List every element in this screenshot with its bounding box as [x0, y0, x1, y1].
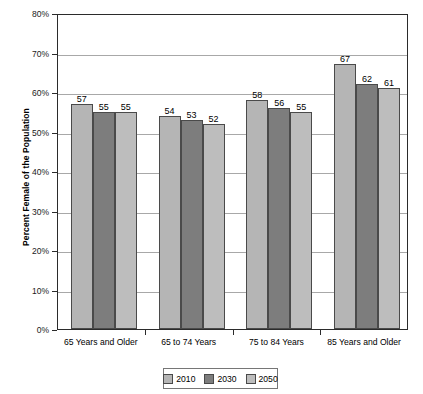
y-tick-mark	[52, 330, 57, 331]
bar	[71, 104, 93, 329]
bar-chart: Percent Female of the Population 0%10%20…	[0, 0, 423, 394]
x-tick-mark	[320, 330, 321, 335]
bar-value-label: 67	[340, 54, 350, 64]
x-category-label: 65 to 74 Years	[161, 337, 216, 347]
y-tick-label: 10%	[9, 286, 49, 296]
y-tick-label: 20%	[9, 246, 49, 256]
y-tick-label: 70%	[9, 49, 49, 59]
bar-value-label: 57	[77, 94, 87, 104]
bar	[334, 64, 356, 329]
x-category-label: 65 Years and Older	[64, 337, 138, 347]
plot-area: 575555545352585655676261	[57, 14, 408, 330]
legend-item-2050[interactable]: 2050	[246, 374, 278, 384]
legend-swatch-2010	[163, 374, 173, 384]
y-tick-label: 80%	[9, 9, 49, 19]
x-category-label: 75 to 84 Years	[249, 337, 304, 347]
legend-swatch-2030	[204, 374, 214, 384]
legend-label-2030: 2030	[217, 374, 236, 384]
bar	[181, 120, 203, 329]
bar-value-label: 54	[165, 106, 175, 116]
y-tick-label: 50%	[9, 128, 49, 138]
x-category-label: 85 Years and Older	[327, 337, 401, 347]
legend-item-2010[interactable]: 2010	[163, 374, 195, 384]
legend: 2010 2030 2050	[163, 368, 278, 389]
y-tick-label: 60%	[9, 88, 49, 98]
bar	[159, 116, 181, 329]
bar	[290, 112, 312, 329]
legend-item-2030[interactable]: 2030	[204, 374, 236, 384]
bar-value-label: 61	[384, 78, 394, 88]
bar	[246, 100, 268, 329]
bar-value-label: 55	[99, 102, 109, 112]
bar-value-label: 53	[187, 110, 197, 120]
bar-value-label: 56	[274, 98, 284, 108]
bar-value-label: 58	[252, 90, 262, 100]
legend-swatch-2050	[246, 374, 256, 384]
legend-label-2010: 2010	[176, 374, 195, 384]
bar-value-label: 62	[362, 74, 372, 84]
bar	[115, 112, 137, 329]
y-tick-label: 0%	[9, 325, 49, 335]
x-tick-mark	[233, 330, 234, 335]
bar	[378, 88, 400, 329]
bar	[93, 112, 115, 329]
bar	[203, 124, 225, 329]
y-tick-label: 30%	[9, 207, 49, 217]
bar-value-label: 52	[209, 114, 219, 124]
gridline	[58, 55, 407, 56]
bar	[268, 108, 290, 329]
bar	[356, 84, 378, 329]
legend-label-2050: 2050	[259, 374, 278, 384]
bar-value-label: 55	[121, 102, 131, 112]
y-tick-label: 40%	[9, 167, 49, 177]
x-tick-mark	[145, 330, 146, 335]
bar-value-label: 55	[296, 102, 306, 112]
